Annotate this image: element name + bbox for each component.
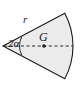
sector-figure: r 2α G xyxy=(0,0,80,88)
radius-label: r xyxy=(23,14,27,25)
centroid-dot xyxy=(42,44,46,48)
apex-angle-label: 2α xyxy=(8,38,19,49)
centroid-label: G xyxy=(39,31,48,43)
